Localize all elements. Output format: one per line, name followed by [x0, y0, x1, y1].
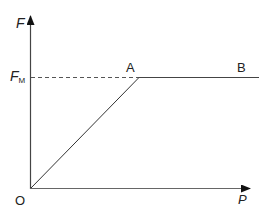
- fm-label: FM: [10, 69, 25, 85]
- force-diagram: [0, 0, 261, 219]
- point-B-label: B: [237, 61, 246, 74]
- fm-label-subscript: M: [19, 76, 26, 85]
- diagram-svg: [0, 0, 261, 219]
- y-axis-label: F: [16, 16, 25, 30]
- x-axis-label: P: [238, 193, 247, 206]
- point-A-label: A: [126, 61, 135, 74]
- segment-OA: [31, 78, 139, 189]
- origin-label: O: [15, 194, 25, 207]
- fm-label-main: F: [10, 68, 19, 84]
